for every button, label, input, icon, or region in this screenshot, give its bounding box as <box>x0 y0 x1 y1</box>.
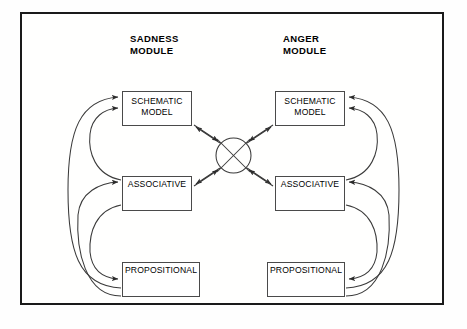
node-anger-schematic[interactable]: SCHEMATIC MODEL <box>275 91 345 126</box>
node-label-sadness-schematic: SCHEMATIC MODEL <box>123 96 191 118</box>
node-sadness-associative[interactable]: ASSOCIATIVE <box>122 176 192 211</box>
node-label-sadness-propositional: PROPOSITIONAL <box>123 265 199 276</box>
node-anger-propositional[interactable]: PROPOSITIONAL <box>267 262 345 297</box>
node-label-anger-propositional: PROPOSITIONAL <box>268 265 344 276</box>
node-anger-associative[interactable]: ASSOCIATIVE <box>275 176 345 211</box>
module-title-anger: ANGER MODULE <box>283 33 327 57</box>
node-label-anger-associative: ASSOCIATIVE <box>276 179 344 190</box>
node-label-anger-schematic: SCHEMATIC MODEL <box>276 96 344 118</box>
node-sadness-schematic[interactable]: SCHEMATIC MODEL <box>122 91 192 126</box>
module-title-sadness: SADNESS MODULE <box>130 33 179 57</box>
node-label-sadness-associative: ASSOCIATIVE <box>123 179 191 190</box>
diagram-canvas: SADNESS MODULE ANGER MODULE SCHEMATIC MO… <box>0 0 467 329</box>
node-sadness-propositional[interactable]: PROPOSITIONAL <box>122 262 200 297</box>
diagram-frame <box>20 12 444 305</box>
